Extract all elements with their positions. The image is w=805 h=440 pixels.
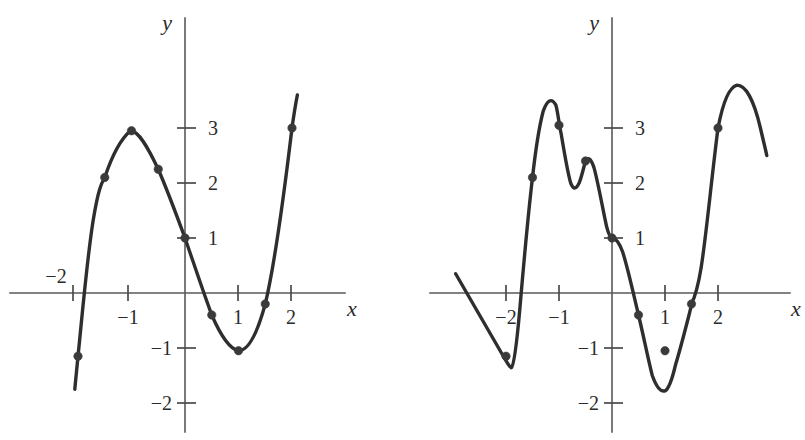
left-yticklabel--1: −1 [151, 337, 172, 359]
right-xticklabel--2: −2 [495, 306, 516, 328]
right-xticklabel--1: −1 [548, 306, 569, 328]
left-x-axis-label: x [346, 296, 357, 321]
data-point [101, 173, 109, 181]
right-yticklabel-3: 3 [635, 117, 645, 139]
data-point [661, 347, 669, 355]
left-xticklabel-2: 2 [286, 306, 296, 328]
data-point [261, 300, 269, 308]
right-xticklabel-2: 2 [713, 306, 723, 328]
right-yticklabel-2: 2 [635, 172, 645, 194]
right-x-axis-label: x [790, 296, 801, 321]
data-point [208, 311, 216, 319]
data-point [154, 165, 162, 173]
data-point [127, 127, 135, 135]
data-point [634, 311, 642, 319]
left-y-axis-label: y [160, 10, 172, 35]
data-point [687, 300, 695, 308]
right-yticklabel--1: −1 [578, 337, 599, 359]
data-point [581, 157, 589, 165]
data-point [555, 121, 563, 129]
left-xticklabel-1: 1 [233, 306, 243, 328]
figure-container: −2 −1 1 2 3 2 1 −1 −2 y x [0, 0, 805, 440]
right-graph-panel: −2 −1 1 2 3 2 1 −1 −2 y x [402, 0, 805, 440]
left-yticklabel-2: 2 [208, 172, 218, 194]
right-yticklabel-1: 1 [635, 227, 645, 249]
right-yticklabel--2: −2 [578, 392, 599, 414]
right-graph-svg: −2 −1 1 2 3 2 1 −1 −2 y x [402, 0, 805, 440]
left-graph-svg: −2 −1 1 2 3 2 1 −1 −2 y x [0, 0, 402, 440]
left-xticklabel--1: −1 [117, 306, 138, 328]
data-point [502, 352, 510, 360]
left-graph-panel: −2 −1 1 2 3 2 1 −1 −2 y x [0, 0, 402, 440]
data-point [714, 124, 722, 132]
right-y-axis-label: y [587, 10, 599, 35]
data-point [288, 124, 296, 132]
data-point [608, 234, 616, 242]
left-xticklabel--2: −2 [45, 265, 66, 287]
data-point [234, 347, 242, 355]
data-point [528, 173, 536, 181]
right-xticklabel-1: 1 [660, 306, 670, 328]
data-point [181, 234, 189, 242]
left-yticklabel--2: −2 [151, 392, 172, 414]
left-yticklabel-3: 3 [208, 117, 218, 139]
data-point [74, 352, 82, 360]
left-yticklabel-1: 1 [208, 227, 218, 249]
